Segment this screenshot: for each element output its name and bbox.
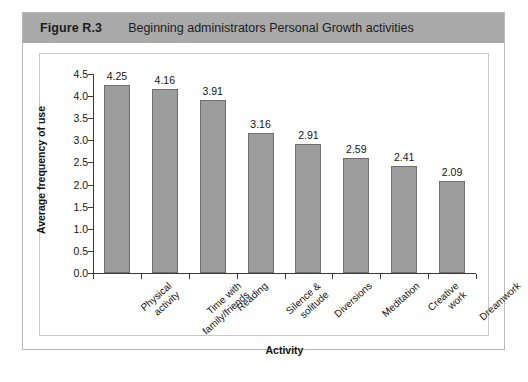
x-axis-category-label: Meditation [380,280,422,319]
y-axis-tick-label: 0.5 [73,245,88,257]
x-axis-category-label: Diversions [332,280,374,320]
x-axis-category-label: Creativework [426,280,469,322]
figure-container: Figure R.3 Beginning administrators Pers… [22,12,505,350]
bar-value-label: 3.16 [250,118,270,130]
bars-layer: 4.254.163.913.162.912.592.412.09 [93,74,476,273]
bar-value-label: 2.91 [298,129,318,141]
x-axis-tick-mark [428,274,429,279]
x-axis-tick-mark [189,274,190,279]
x-axis-category-label: Physicalactivity [139,280,182,322]
x-axis-tick-mark [332,274,333,279]
chart-plot-area: Average frequency of use 0.00.51.01.52.0… [39,53,489,336]
bar-value-label: 4.16 [155,74,175,86]
bar [391,166,417,273]
x-axis-category-label: Dreamwork [477,280,523,323]
x-axis-tick-mark [476,274,477,279]
x-axis-category-label: Silence &solitude [283,280,330,325]
x-axis-tick-mark [380,274,381,279]
y-axis-tick-labels: 0.00.51.01.52.02.53.03.54.04.5 [58,74,88,273]
bar [295,144,321,273]
bar [248,133,274,273]
y-axis-tick-label: 4.0 [73,90,88,102]
x-axis-tick-mark [141,274,142,279]
y-axis-tick-label: 2.0 [73,179,88,191]
y-axis-tick-label: 3.0 [73,134,88,146]
y-axis-tick-label: 1.5 [73,201,88,213]
bar [152,89,178,273]
x-axis-title: Activity [93,344,476,356]
y-axis-tick-label: 0.0 [73,267,88,279]
y-axis-tick-label: 2.5 [73,156,88,168]
x-axis-tick-mark [93,274,94,279]
y-axis-title: Average frequency of use [33,70,49,270]
bar-value-label: 4.25 [107,70,127,82]
y-axis-tick-label: 3.5 [73,112,88,124]
bar [343,158,369,273]
bar-value-label: 2.09 [442,166,462,178]
bar-value-label: 3.91 [202,85,222,97]
bar [200,100,226,273]
x-axis-category-labels: PhysicalactivityTime withfamily/friendsR… [93,280,476,342]
x-axis-tick-mark [237,274,238,279]
y-axis-tick-label: 4.5 [73,68,88,80]
figure-number-label: Figure R.3 [40,21,102,35]
bar [439,181,465,273]
bar-value-label: 2.59 [346,143,366,155]
figure-header-band: Figure R.3 Beginning administrators Pers… [23,13,504,43]
y-axis-tick-label: 1.0 [73,223,88,235]
x-axis-tick-mark [285,274,286,279]
figure-caption-text: Beginning administrators Personal Growth… [128,21,414,35]
bar-value-label: 2.41 [394,151,414,163]
bar [104,85,130,273]
